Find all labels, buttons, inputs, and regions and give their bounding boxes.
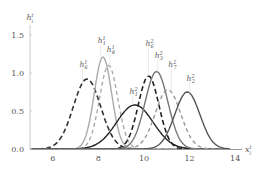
curve-label: h26	[146, 38, 155, 49]
curve-label: h22	[187, 73, 195, 84]
x-tick-label: 14	[230, 154, 240, 163]
curve-labels-layer: h16h11h18h21h26h23h27h22	[79, 35, 194, 106]
y-axis-title: hti	[26, 12, 34, 24]
curve-label: h16	[79, 59, 88, 70]
x-tick-label: 10	[139, 154, 149, 163]
x-tick-label: 6	[50, 154, 55, 163]
y-tick-label: 0.0	[11, 145, 24, 154]
curve-label: h11	[98, 35, 106, 46]
x-axis-title: xti	[245, 144, 253, 156]
x-tick-label: 12	[185, 154, 195, 163]
y-tick-label: 0.5	[11, 107, 24, 116]
curve-label: h23	[155, 50, 163, 61]
y-tick-label: 1.5	[11, 31, 24, 40]
curve-h_1-2	[30, 105, 230, 149]
curve-label: h18	[107, 44, 115, 55]
y-tick-label: 1.0	[11, 69, 24, 78]
curve-h_2-2	[30, 92, 230, 149]
curve-label: h27	[168, 59, 177, 70]
curves-layer	[30, 57, 230, 149]
x-tick-label: 8	[96, 154, 101, 163]
curve-label: h21	[130, 86, 138, 97]
chart: 681012140.00.51.01.5 h16h11h18h21h26h23h…	[0, 0, 264, 171]
